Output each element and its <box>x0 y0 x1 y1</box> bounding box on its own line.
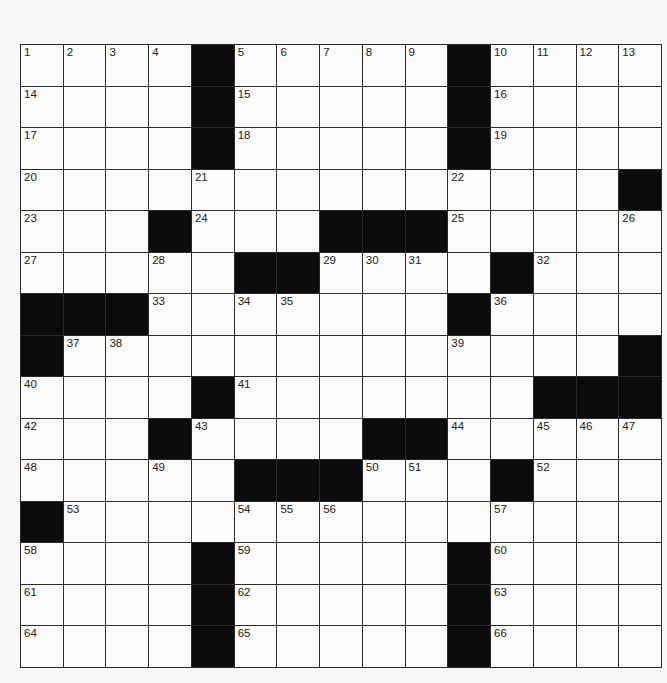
grid-cell[interactable] <box>149 336 191 377</box>
grid-cell[interactable] <box>406 87 448 128</box>
grid-cell[interactable] <box>64 419 106 460</box>
grid-cell[interactable]: 36 <box>491 294 533 335</box>
grid-cell[interactable] <box>363 626 405 667</box>
grid-cell[interactable]: 54 <box>235 502 277 543</box>
grid-cell[interactable]: 65 <box>235 626 277 667</box>
grid-cell[interactable]: 3 <box>106 45 148 86</box>
grid-cell[interactable] <box>448 460 490 501</box>
grid-cell[interactable]: 49 <box>149 460 191 501</box>
grid-cell[interactable] <box>106 170 148 211</box>
grid-cell[interactable] <box>106 87 148 128</box>
grid-cell[interactable] <box>406 626 448 667</box>
grid-cell[interactable]: 55 <box>277 502 319 543</box>
grid-cell[interactable] <box>363 502 405 543</box>
grid-cell[interactable] <box>448 253 490 294</box>
grid-cell[interactable] <box>277 211 319 252</box>
grid-cell[interactable] <box>363 585 405 626</box>
grid-cell[interactable] <box>619 253 661 294</box>
grid-cell[interactable] <box>277 419 319 460</box>
grid-cell[interactable] <box>406 502 448 543</box>
grid-cell[interactable] <box>64 170 106 211</box>
grid-cell[interactable]: 48 <box>21 460 63 501</box>
grid-cell[interactable] <box>320 87 362 128</box>
grid-cell[interactable]: 17 <box>21 128 63 169</box>
grid-cell[interactable]: 32 <box>534 253 576 294</box>
grid-cell[interactable] <box>235 419 277 460</box>
grid-cell[interactable] <box>277 170 319 211</box>
grid-cell[interactable]: 30 <box>363 253 405 294</box>
grid-cell[interactable] <box>320 543 362 584</box>
grid-cell[interactable] <box>363 377 405 418</box>
grid-cell[interactable]: 7 <box>320 45 362 86</box>
grid-cell[interactable]: 22 <box>448 170 490 211</box>
grid-cell[interactable] <box>277 543 319 584</box>
grid-cell[interactable] <box>534 585 576 626</box>
grid-cell[interactable] <box>149 626 191 667</box>
grid-cell[interactable]: 37 <box>64 336 106 377</box>
grid-cell[interactable] <box>406 294 448 335</box>
grid-cell[interactable] <box>277 585 319 626</box>
grid-cell[interactable]: 21 <box>192 170 234 211</box>
grid-cell[interactable] <box>106 626 148 667</box>
grid-cell[interactable]: 16 <box>491 87 533 128</box>
grid-cell[interactable] <box>106 253 148 294</box>
grid-cell[interactable] <box>406 336 448 377</box>
grid-cell[interactable] <box>149 585 191 626</box>
grid-cell[interactable]: 6 <box>277 45 319 86</box>
grid-cell[interactable] <box>619 294 661 335</box>
grid-cell[interactable] <box>363 170 405 211</box>
grid-cell[interactable] <box>320 377 362 418</box>
grid-cell[interactable]: 31 <box>406 253 448 294</box>
grid-cell[interactable] <box>106 502 148 543</box>
grid-cell[interactable] <box>448 377 490 418</box>
grid-cell[interactable]: 57 <box>491 502 533 543</box>
grid-cell[interactable] <box>64 585 106 626</box>
grid-cell[interactable]: 64 <box>21 626 63 667</box>
grid-cell[interactable] <box>577 128 619 169</box>
grid-cell[interactable]: 14 <box>21 87 63 128</box>
grid-cell[interactable]: 5 <box>235 45 277 86</box>
grid-cell[interactable]: 26 <box>619 211 661 252</box>
grid-cell[interactable] <box>64 211 106 252</box>
grid-cell[interactable]: 4 <box>149 45 191 86</box>
grid-cell[interactable] <box>491 211 533 252</box>
grid-cell[interactable]: 46 <box>577 419 619 460</box>
grid-cell[interactable]: 13 <box>619 45 661 86</box>
grid-cell[interactable]: 12 <box>577 45 619 86</box>
grid-cell[interactable] <box>448 502 490 543</box>
grid-cell[interactable]: 51 <box>406 460 448 501</box>
grid-cell[interactable] <box>491 170 533 211</box>
grid-cell[interactable] <box>106 211 148 252</box>
grid-cell[interactable] <box>577 502 619 543</box>
grid-cell[interactable]: 53 <box>64 502 106 543</box>
grid-cell[interactable] <box>577 170 619 211</box>
grid-cell[interactable]: 47 <box>619 419 661 460</box>
grid-cell[interactable] <box>577 253 619 294</box>
grid-cell[interactable]: 42 <box>21 419 63 460</box>
grid-cell[interactable]: 41 <box>235 377 277 418</box>
grid-cell[interactable] <box>406 543 448 584</box>
grid-cell[interactable] <box>534 626 576 667</box>
grid-cell[interactable] <box>320 626 362 667</box>
grid-cell[interactable] <box>277 377 319 418</box>
grid-cell[interactable]: 44 <box>448 419 490 460</box>
grid-cell[interactable] <box>64 87 106 128</box>
grid-cell[interactable] <box>64 128 106 169</box>
grid-cell[interactable]: 45 <box>534 419 576 460</box>
grid-cell[interactable] <box>192 253 234 294</box>
grid-cell[interactable]: 18 <box>235 128 277 169</box>
grid-cell[interactable] <box>149 543 191 584</box>
grid-cell[interactable] <box>106 460 148 501</box>
grid-cell[interactable] <box>363 294 405 335</box>
grid-cell[interactable] <box>619 585 661 626</box>
grid-cell[interactable] <box>106 585 148 626</box>
grid-cell[interactable] <box>577 336 619 377</box>
grid-cell[interactable] <box>534 294 576 335</box>
grid-cell[interactable] <box>491 377 533 418</box>
grid-cell[interactable]: 20 <box>21 170 63 211</box>
grid-cell[interactable] <box>577 87 619 128</box>
grid-cell[interactable]: 62 <box>235 585 277 626</box>
grid-cell[interactable]: 2 <box>64 45 106 86</box>
grid-cell[interactable]: 8 <box>363 45 405 86</box>
grid-cell[interactable] <box>363 87 405 128</box>
